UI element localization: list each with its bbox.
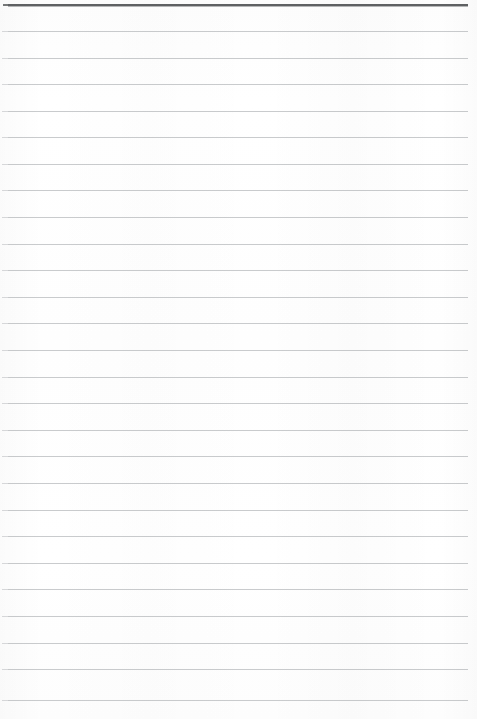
document-page (0, 0, 477, 719)
writing-area[interactable] (8, 6, 468, 706)
